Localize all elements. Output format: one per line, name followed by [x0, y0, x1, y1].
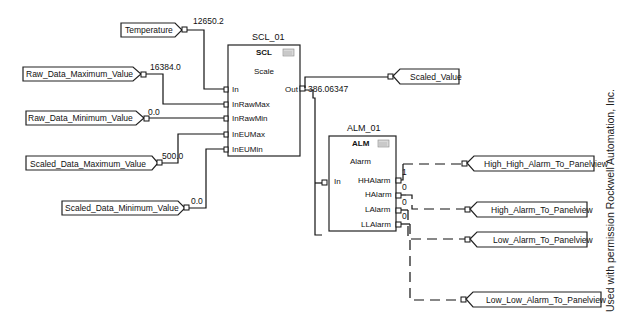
- tag-label: Scaled_Data_Minimum_Value: [65, 203, 179, 213]
- scl-pin-inrawmax: InRawMax: [232, 100, 270, 109]
- tag-label: High_Alarm_To_Panelview: [491, 205, 593, 215]
- scl-pin-ineumin: InEUMin: [232, 145, 263, 154]
- input-tag-temperature[interactable]: Temperature: [121, 23, 187, 37]
- output-tag-low-alarm[interactable]: Low_Alarm_To_Panelview: [465, 232, 594, 247]
- scl-pin-out: Out: [285, 85, 299, 94]
- scl-pin-in: In: [232, 85, 239, 94]
- alm-pin-halarm: HAlarm: [365, 190, 392, 199]
- tag-label: Scaled_Value: [410, 72, 462, 82]
- alm-block[interactable]: ALM_01 ALM Alarm In HHAlarm HAlarm LAlar…: [322, 123, 401, 231]
- tag-label: Low_Alarm_To_Panelview: [493, 235, 594, 245]
- copyright-credit: Used with permission Rockwell Automation…: [604, 89, 616, 312]
- alm-block-type: ALM: [352, 139, 370, 148]
- value-raw-max: 16384.0: [150, 62, 181, 72]
- value-raw-min: 0.0: [148, 107, 160, 117]
- value-scaled-max: 500.0: [162, 151, 184, 161]
- wires-scl-inputs: [146, 30, 224, 208]
- alm-pin-in: In: [334, 177, 341, 186]
- input-tag-scaled-data-maximum[interactable]: Scaled_Data_Maximum_Value: [26, 156, 162, 170]
- scl-pin-ineumax: InEUMax: [232, 130, 265, 139]
- value-lalarm: 0: [402, 197, 407, 207]
- output-tag-low-low-alarm[interactable]: Low_Low_Alarm_To_Panelview: [461, 292, 607, 307]
- tag-label: Scaled_Data_Maximum_Value: [30, 159, 146, 169]
- alm-pin-llalarm: LLAlarm: [361, 220, 391, 229]
- value-temperature: 12650.2: [193, 16, 224, 26]
- value-scaled-min: 0.0: [191, 196, 203, 206]
- scl-block[interactable]: SCL_01 SCL Scale In InRawMax InRawMin In…: [224, 32, 305, 156]
- alm-block-description: Alarm: [350, 157, 371, 166]
- input-tag-raw-data-maximum[interactable]: Raw_Data_Maximum_Value: [23, 67, 146, 81]
- scl-block-name: SCL_01: [252, 32, 285, 42]
- value-halarm: 0: [402, 182, 407, 192]
- alm-block-name: ALM_01: [347, 123, 381, 133]
- block-config-icon[interactable]: [378, 140, 389, 147]
- output-tag-high-alarm[interactable]: High_Alarm_To_Panelview: [465, 202, 593, 217]
- tag-label: Temperature: [125, 25, 173, 35]
- alm-pin-hhalarm: HHAlarm: [358, 176, 391, 185]
- tag-label: Raw_Data_Minimum_Value: [28, 113, 133, 123]
- wires-alm-outputs: [401, 164, 465, 300]
- scl-block-type: SCL: [256, 48, 272, 57]
- input-tag-scaled-data-minimum[interactable]: Scaled_Data_Minimum_Value: [62, 201, 189, 215]
- output-tag-scaled-value[interactable]: Scaled_Value: [388, 69, 462, 84]
- function-block-diagram: .ln { stroke: #111; stroke-width: 1.2; f…: [0, 0, 631, 321]
- input-tag-raw-data-minimum[interactable]: Raw_Data_Minimum_Value: [26, 111, 149, 125]
- output-tag-high-high-alarm[interactable]: High_High_Alarm_To_Panelview: [462, 156, 609, 171]
- tag-label: High_High_Alarm_To_Panelview: [484, 159, 609, 169]
- scl-pin-inrawmin: InRawMin: [232, 114, 268, 123]
- tag-label: Raw_Data_Maximum_Value: [26, 69, 133, 79]
- block-config-icon[interactable]: [283, 49, 294, 56]
- tag-label: Low_Low_Alarm_To_Panelview: [486, 295, 607, 305]
- value-llalarm: 0: [402, 211, 407, 221]
- value-scl-out: 386.06347: [308, 84, 348, 94]
- alm-pin-lalarm: LAlarm: [365, 205, 391, 214]
- scl-block-description: Scale: [254, 67, 275, 76]
